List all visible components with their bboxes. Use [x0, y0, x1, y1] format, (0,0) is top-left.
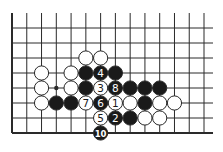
move-number-label: 2	[112, 112, 119, 124]
star-points	[54, 86, 58, 90]
black-stone-move-6: 6	[94, 96, 108, 110]
move-number-label: 8	[112, 82, 119, 94]
white-stone-move-5: 5	[94, 111, 108, 125]
white-stone	[153, 96, 167, 110]
black-stone-move-2: 2	[108, 111, 122, 125]
white-stone	[123, 96, 137, 110]
move-number-label: 5	[97, 112, 104, 124]
white-stone	[64, 66, 78, 80]
move-number-label: 1	[112, 97, 119, 109]
white-stone	[34, 96, 48, 110]
black-stone-move-10: 10	[94, 126, 108, 140]
black-stone	[123, 81, 137, 95]
black-stone	[49, 96, 63, 110]
white-stone-move-1: 1	[108, 96, 122, 110]
black-stone-move-8: 8	[108, 81, 122, 95]
star-point	[54, 86, 58, 90]
black-stone	[138, 96, 152, 110]
white-stone	[153, 111, 167, 125]
black-stone	[138, 81, 152, 95]
white-stone-move-7: 7	[79, 96, 93, 110]
black-stone	[79, 66, 93, 80]
black-stone	[123, 111, 137, 125]
white-stone	[79, 51, 93, 65]
black-stone	[153, 81, 167, 95]
black-stone	[64, 96, 78, 110]
white-stone	[34, 81, 48, 95]
white-stone	[94, 51, 108, 65]
black-stone-move-4: 4	[94, 66, 108, 80]
white-stone	[167, 96, 181, 110]
move-number-label: 3	[97, 82, 104, 94]
move-number-label: 7	[83, 97, 90, 109]
black-stone	[108, 66, 122, 80]
move-number-label: 6	[97, 97, 104, 109]
white-stone	[138, 111, 152, 125]
white-stone	[34, 66, 48, 80]
black-stone	[79, 81, 93, 95]
white-stone-move-3: 3	[94, 81, 108, 95]
go-board-diagram: 4387615210	[0, 0, 223, 152]
move-number-label: 10	[95, 129, 107, 139]
white-stone	[64, 81, 78, 95]
move-number-label: 4	[97, 67, 104, 79]
